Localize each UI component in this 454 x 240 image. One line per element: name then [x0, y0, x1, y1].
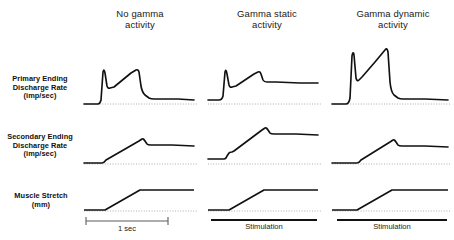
trace-secondary-no-gamma [84, 139, 194, 163]
trace-secondary-gamma-dynamic [332, 140, 448, 163]
trace-primary-gamma-static [208, 70, 318, 100]
trace-primary-gamma-dynamic [332, 49, 448, 104]
stimulation-label-gamma-dynamic: Stimulation [337, 222, 447, 231]
muscle-spindle-figure: No gamma activity Gamma static activity … [0, 0, 454, 240]
trace-stretch-gamma-static [208, 190, 318, 210]
trace-primary-no-gamma [84, 70, 194, 104]
trace-stretch-gamma-dynamic [332, 190, 448, 210]
traces-svg [0, 0, 454, 240]
trace-secondary-gamma-static [208, 128, 318, 159]
trace-stretch-no-gamma [84, 190, 194, 210]
stimulation-label-gamma-static: Stimulation [211, 222, 317, 231]
time-scale-label: 1 sec [86, 224, 168, 233]
